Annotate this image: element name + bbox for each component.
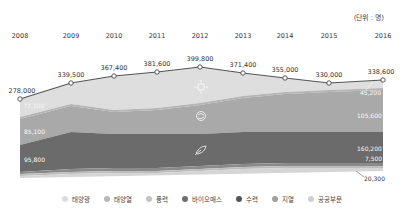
legend-dot-icon xyxy=(272,196,278,202)
total-label: 381,600 xyxy=(144,60,171,68)
total-label: 367,400 xyxy=(101,64,128,72)
legend-item-geothermal: 지열 xyxy=(272,194,294,204)
legend-dot-icon xyxy=(236,196,242,202)
legend-label: 지열 xyxy=(282,194,294,204)
right-biomass-label: 160,200 xyxy=(357,145,382,152)
legend-item-hydro: 수력 xyxy=(236,194,258,204)
legend: 태양광 태양열 풍력 바이오매스 수력 지열 공공부문 xyxy=(0,194,404,204)
total-label: 399,800 xyxy=(187,55,214,63)
legend-label: 태양광 xyxy=(72,194,90,204)
right-hydro-label: 7,500 xyxy=(365,155,382,162)
total-label: 371,400 xyxy=(230,61,257,69)
legend-dot-icon xyxy=(308,196,314,202)
legend-item-public-sector: 공공부문 xyxy=(308,194,342,204)
total-label: 339,500 xyxy=(58,71,85,79)
legend-dot-icon xyxy=(62,196,68,202)
legend-dot-icon xyxy=(146,196,152,202)
legend-dot-icon xyxy=(104,196,110,202)
legend-label: 태양열 xyxy=(114,194,132,204)
total-label: 355,000 xyxy=(272,66,299,74)
total-label: 330,000 xyxy=(316,71,343,79)
left-solar-label: ?7,100 xyxy=(24,102,44,109)
legend-label: 바이오매스 xyxy=(192,194,222,204)
left-biomass-label: 95,800 xyxy=(24,156,45,163)
total-label: 338,600 xyxy=(368,68,395,76)
right-solar-label: 45,200 xyxy=(360,89,381,96)
right-public-label: 20,300 xyxy=(364,175,385,182)
legend-item-solar-pv: 태양광 xyxy=(62,194,90,204)
legend-item-wind: 풍력 xyxy=(146,194,168,204)
total-label: 278,000 xyxy=(9,87,36,95)
legend-dot-icon xyxy=(182,196,188,202)
left-wind-label: 85,100 xyxy=(24,128,45,135)
legend-label: 공공부문 xyxy=(318,194,342,204)
legend-item-solar-thermal: 태양열 xyxy=(104,194,132,204)
right-wind-label: 105,600 xyxy=(357,112,382,119)
stacked-area-chart xyxy=(0,0,404,190)
legend-label: 풍력 xyxy=(156,194,168,204)
legend-label: 수력 xyxy=(246,194,258,204)
legend-item-biomass: 바이오매스 xyxy=(182,194,222,204)
